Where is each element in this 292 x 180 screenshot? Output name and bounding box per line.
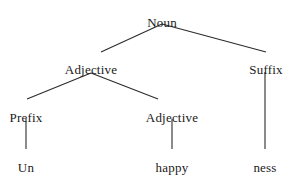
node-adjective-lower: Adjective (146, 110, 198, 125)
node-prefix: Prefix (10, 110, 43, 125)
edge-noun-suffix (162, 24, 266, 52)
node-noun: Noun (147, 15, 177, 30)
node-leaf-ness: ness (253, 160, 276, 175)
node-suffix: Suffix (249, 62, 282, 77)
node-leaf-un: Un (18, 160, 34, 175)
node-leaf-happy: happy (156, 160, 189, 175)
node-adjective-upper: Adjective (65, 62, 117, 77)
tree-edge-layer (0, 0, 292, 180)
parse-tree-figure: Noun Adjective Suffix Prefix Adjective U… (0, 0, 292, 180)
